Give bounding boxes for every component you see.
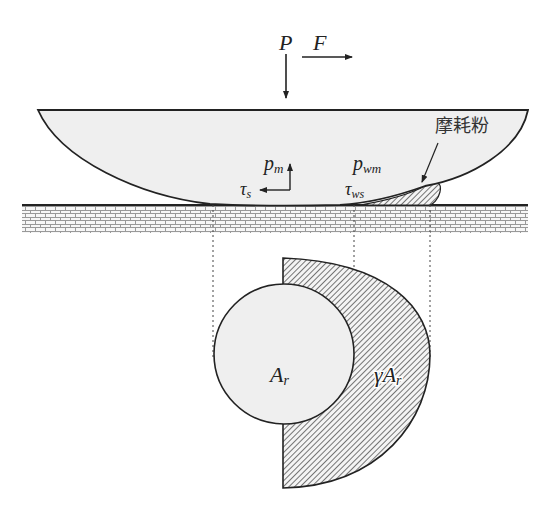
label-P: P [278, 30, 292, 55]
ground-surface [22, 205, 528, 233]
friction-wear-diagram: P F pm pwm τs τws 摩耗粉 Ar γAr [0, 0, 547, 510]
wear-debris-label: 摩耗粉 [435, 115, 489, 136]
label-F: F [312, 30, 327, 55]
real-contact-area [214, 284, 354, 424]
